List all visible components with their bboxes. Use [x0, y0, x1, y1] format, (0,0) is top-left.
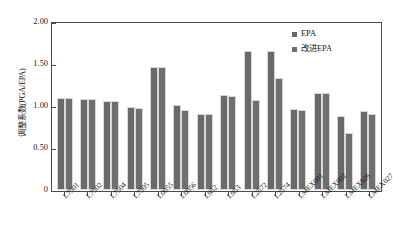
legend-item-label: 改进EPA — [301, 44, 332, 54]
legend-item-improved-epa: 改进EPA — [292, 43, 378, 55]
bar-group — [100, 24, 123, 190]
bar — [275, 78, 283, 190]
bar — [135, 108, 143, 190]
y-axis-tickmark — [52, 65, 56, 66]
y-axis-tick-label: 1.00 — [20, 102, 48, 110]
bar — [173, 105, 181, 190]
bar — [158, 67, 166, 190]
bar-group — [123, 24, 146, 190]
bar-group — [240, 24, 263, 190]
bar — [80, 99, 88, 190]
legend-item-epa: EPA — [292, 28, 378, 40]
bar — [298, 110, 306, 190]
bar — [65, 98, 73, 190]
y-axis-tick-label: 0 — [20, 186, 48, 194]
bar — [57, 98, 65, 190]
bar — [127, 107, 135, 190]
legend-swatch-icon — [292, 47, 297, 52]
bar — [220, 95, 228, 190]
bar — [267, 51, 275, 190]
chart-legend: EPA 改进EPA — [292, 28, 378, 58]
y-axis-tick-label: 0.50 — [20, 144, 48, 152]
bar — [244, 51, 252, 190]
legend-swatch-icon — [292, 32, 297, 37]
bar — [252, 100, 260, 190]
bar — [181, 110, 189, 190]
bar-group — [193, 24, 216, 190]
y-axis-tickmark — [52, 149, 56, 150]
bar — [228, 96, 236, 190]
y-axis-tickmark — [52, 107, 56, 108]
bar-group — [76, 24, 99, 190]
bar-group — [170, 24, 193, 190]
y-axis-tick-label: 2.00 — [20, 18, 48, 26]
bar-group — [217, 24, 240, 190]
y-axis-tickmark — [52, 23, 56, 24]
bar — [345, 133, 353, 190]
bar-group — [53, 24, 76, 190]
bar — [88, 99, 96, 190]
bar-chart: 调整系数(PGA/EPA) 00.501.001.502.00 L7501L75… — [0, 0, 393, 248]
x-axis-tick-labels: L7501L7502L7504L7505L0055L0056L952L953L2… — [51, 194, 382, 248]
bar — [103, 101, 111, 190]
bar — [290, 109, 298, 190]
bar-group — [146, 24, 169, 190]
bar — [205, 114, 213, 190]
y-axis-tick-labels: 00.501.001.502.00 — [20, 18, 48, 192]
y-axis-tick-label: 1.50 — [20, 60, 48, 68]
bar — [197, 114, 205, 190]
bar-group — [263, 24, 286, 190]
bar — [111, 101, 119, 190]
legend-item-label: EPA — [301, 29, 316, 39]
bar — [150, 67, 158, 190]
